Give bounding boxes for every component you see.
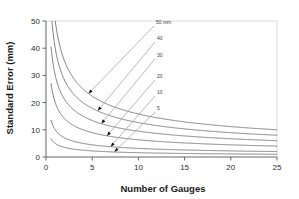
y-axis-title: Standard Error (mm)	[4, 42, 15, 135]
y-tick-label: 0	[36, 153, 41, 162]
x-tick-label: 0	[44, 163, 49, 172]
series-label: 30	[157, 52, 163, 58]
series-label: 20	[157, 73, 163, 79]
x-tick-label: 15	[180, 163, 189, 172]
x-axis-title: Number of Gauges	[121, 183, 206, 194]
x-tick-label: 5	[90, 163, 95, 172]
series-label: 5	[157, 105, 160, 111]
series-label: 50 mm	[156, 19, 171, 25]
series-label: 40	[157, 35, 163, 41]
y-tick-label: 30	[31, 71, 40, 80]
series-label: 10	[157, 89, 163, 95]
x-tick-label: 20	[226, 163, 235, 172]
standard-error-line-chart: 50 mm403020105 0510152025 01020304050 Nu…	[0, 0, 299, 199]
x-tick-label: 25	[273, 163, 282, 172]
y-tick-label: 20	[31, 99, 40, 108]
y-tick-label: 40	[31, 44, 40, 53]
y-tick-label: 10	[31, 126, 40, 135]
chart-container: 50 mm403020105 0510152025 01020304050 Nu…	[0, 0, 299, 199]
y-tick-label: 50	[31, 17, 40, 26]
x-tick-label: 10	[134, 163, 143, 172]
